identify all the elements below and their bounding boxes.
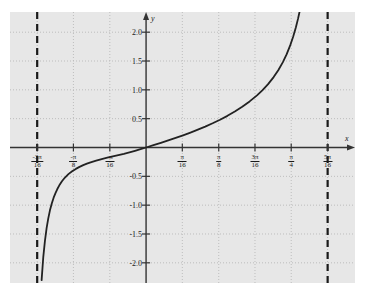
y-tick-label: -1.5 [116, 229, 142, 238]
data-curve [42, 12, 300, 280]
y-tick-label: 0.5 [116, 114, 142, 123]
x-axis-label: x [345, 134, 349, 143]
chart-figure: -3π16-π8-π16π16π83π16π45π16 2.01.51.00.5… [0, 0, 367, 292]
plot-area [10, 12, 355, 283]
x-tick-label: π16 [178, 154, 187, 169]
y-tick-label: -2.0 [116, 258, 142, 267]
y-tick-label: -0.5 [116, 172, 142, 181]
y-tick-label: 2.0 [116, 28, 142, 37]
y-tick-label: 1.0 [116, 85, 142, 94]
y-tick-label: 1.5 [116, 57, 142, 66]
x-tick-label: π8 [216, 154, 222, 169]
x-tick-label: -π8 [69, 154, 77, 169]
x-tick-label: 5π16 [323, 154, 332, 169]
x-tick-label: π4 [288, 154, 294, 169]
y-tick-label: -1.0 [116, 201, 142, 210]
x-tick-label: -3π16 [31, 154, 42, 169]
chart-canvas [10, 12, 355, 283]
x-tick-label: 3π16 [250, 154, 259, 169]
y-axis-label: y [151, 14, 155, 23]
x-tick-label: -π16 [105, 154, 114, 169]
